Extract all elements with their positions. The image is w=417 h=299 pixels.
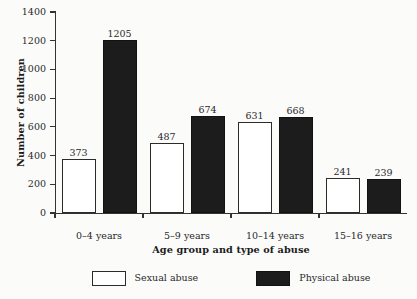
bar-sexual-abuse-3: 241 (326, 178, 360, 213)
legend-item-physical-abuse: Physical abuse (256, 271, 370, 286)
bar-sexual-abuse-2: 631 (238, 122, 272, 213)
y-axis-tick-label: 800 (0, 93, 46, 103)
y-axis-tick-label: 1400 (0, 7, 46, 17)
bar-value-label: 631 (245, 111, 263, 121)
x-axis-category-label: 0–4 years (55, 231, 143, 241)
filled-square-swatch-icon (256, 271, 290, 286)
y-axis-tick-label: 1200 (0, 36, 46, 46)
bar-value-label: 373 (69, 148, 87, 158)
bar-sexual-abuse-1: 487 (150, 143, 184, 213)
bar-physical-abuse-0: 1205 (103, 40, 137, 213)
bar-physical-abuse-1: 674 (191, 116, 225, 213)
bar-chart: Number of children 020040060080010001200… (0, 0, 417, 299)
bar-value-label: 239 (374, 168, 392, 178)
y-axis-tick-label: 200 (0, 179, 46, 189)
bar-sexual-abuse-0: 373 (62, 159, 96, 213)
x-axis-category-label: 5–9 years (143, 231, 231, 241)
bar-value-label: 668 (286, 106, 304, 116)
bar-physical-abuse-2: 668 (279, 117, 313, 213)
y-axis-tick-label: 1000 (0, 64, 46, 74)
legend-label-sexual-abuse: Sexual abuse (135, 273, 199, 283)
y-axis-tick-label: 0 (0, 208, 46, 218)
bar-value-label: 1205 (107, 29, 131, 39)
y-axis-tick-label: 600 (0, 122, 46, 132)
y-axis-tick-label: 400 (0, 151, 46, 161)
open-square-swatch-icon (92, 271, 126, 286)
x-axis-category-label: 15–16 years (319, 231, 407, 241)
bar-value-label: 674 (198, 105, 216, 115)
legend-item-sexual-abuse: Sexual abuse (92, 271, 199, 286)
bar-physical-abuse-3: 239 (367, 179, 401, 213)
x-axis-tick-labels: 0–4 years5–9 years10–14 years15–16 years (55, 213, 407, 229)
x-axis-category-label: 10–14 years (231, 231, 319, 241)
legend-label-physical-abuse: Physical abuse (299, 273, 370, 283)
chart-legend: Sexual abuse Physical abuse (55, 268, 407, 288)
x-axis-title: Age group and type of abuse (55, 244, 407, 255)
bar-value-label: 241 (333, 167, 351, 177)
bar-value-label: 487 (157, 132, 175, 142)
plot-area: 3731205487674631668241239 0–4 years5–9 y… (55, 12, 407, 213)
